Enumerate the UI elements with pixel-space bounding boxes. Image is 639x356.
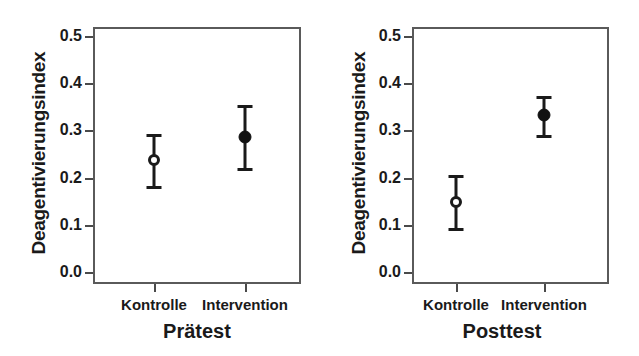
y-tick-label: 0.1	[355, 217, 401, 233]
error-cap-lower-intervention	[238, 168, 253, 171]
data-point-kontrolle[interactable]	[450, 196, 462, 208]
y-tick-label: 0.3	[355, 122, 401, 138]
y-tick-label: 0.2	[355, 170, 401, 186]
error-cap-upper-kontrolle	[147, 134, 162, 137]
y-tick-label: 0.0	[36, 264, 82, 280]
y-tick-label: 0.4	[36, 75, 82, 91]
x-tick-mark	[544, 284, 546, 292]
error-cap-lower-intervention	[537, 135, 552, 138]
figure-two-panel-error-bar-chart: Deagentivierungsindex 0.5 0.4 0.3 0.2 0.…	[0, 0, 639, 356]
error-cap-lower-kontrolle	[449, 228, 464, 231]
data-point-kontrolle[interactable]	[148, 154, 160, 166]
y-tick-mark	[85, 178, 93, 180]
y-tick-mark	[85, 272, 93, 274]
y-tick-mark	[404, 130, 412, 132]
plot-area	[412, 27, 609, 284]
y-tick-label: 0.1	[36, 217, 82, 233]
x-axis-title: Prätest	[163, 320, 231, 343]
y-tick-mark	[85, 225, 93, 227]
y-tick-mark	[404, 225, 412, 227]
data-point-intervention[interactable]	[239, 131, 252, 144]
x-tick-label-kontrolle: Kontrolle	[423, 296, 489, 313]
x-tick-label-kontrolle: Kontrolle	[121, 296, 187, 313]
y-tick-mark	[404, 272, 412, 274]
y-tick-mark	[404, 178, 412, 180]
panel-posttest: Deagentivierungsindex 0.5 0.4 0.3 0.2 0.…	[320, 0, 639, 356]
x-tick-label-intervention: Intervention	[202, 296, 288, 313]
plot-area	[93, 27, 301, 284]
y-tick-label: 0.0	[355, 264, 401, 280]
y-tick-label: 0.5	[355, 28, 401, 44]
error-cap-upper-kontrolle	[449, 175, 464, 178]
x-tick-mark	[245, 284, 247, 292]
y-tick-label: 0.4	[355, 75, 401, 91]
error-cap-upper-intervention	[537, 96, 552, 99]
y-tick-label: 0.2	[36, 170, 82, 186]
y-axis-title: Deagentivierungsindex	[346, 8, 372, 298]
y-tick-label: 0.5	[36, 28, 82, 44]
y-tick-mark	[85, 130, 93, 132]
x-tick-mark	[456, 284, 458, 292]
y-tick-mark	[404, 36, 412, 38]
error-cap-upper-intervention	[238, 105, 253, 108]
error-cap-lower-kontrolle	[147, 186, 162, 189]
y-axis-title: Deagentivierungsindex	[26, 8, 52, 298]
x-axis-title: Posttest	[463, 320, 542, 343]
x-tick-label-intervention: Intervention	[501, 296, 587, 313]
data-point-intervention[interactable]	[538, 109, 551, 122]
panel-praetest: Deagentivierungsindex 0.5 0.4 0.3 0.2 0.…	[0, 0, 320, 356]
y-tick-mark	[404, 83, 412, 85]
y-tick-label: 0.3	[36, 122, 82, 138]
x-tick-mark	[154, 284, 156, 292]
y-tick-mark	[85, 36, 93, 38]
y-tick-mark	[85, 83, 93, 85]
